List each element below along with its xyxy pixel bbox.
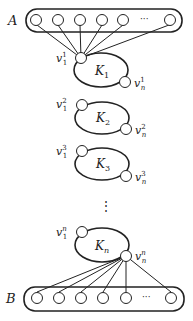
a-node — [75, 15, 86, 26]
graph-diagram: A ··· K1 v11 v1n K2 v21 v2n K3 v31 v3n ⋮… — [0, 0, 193, 321]
svg-text:vn1: vn1 — [56, 225, 67, 241]
svg-text:v3n: v3n — [135, 170, 147, 186]
svg-text:vnn: vnn — [135, 249, 147, 265]
svg-text:K2: K2 — [95, 111, 110, 127]
set-b: B ··· — [5, 287, 184, 311]
set-b-ellipsis: ··· — [142, 292, 151, 302]
set-a: A ··· — [7, 9, 182, 32]
svg-text:v11: v11 — [56, 51, 67, 67]
set-a-ellipsis: ··· — [140, 14, 149, 24]
b-node — [98, 293, 109, 304]
loop-k2: K2 v21 v2n — [56, 97, 147, 139]
svg-text:v2n: v2n — [135, 123, 147, 139]
loop-k1: K1 v11 v1n — [56, 51, 146, 92]
a-node — [118, 15, 129, 26]
loop-k3: K3 v31 v3n — [56, 144, 147, 186]
a-node — [97, 15, 108, 26]
set-a-label: A — [7, 13, 17, 28]
loop-kn: Kn vn1 vnn — [56, 225, 147, 265]
svg-text:K3: K3 — [95, 157, 110, 173]
svg-text:v31: v31 — [56, 144, 67, 160]
b-node — [166, 293, 177, 304]
svg-text:v1n: v1n — [134, 76, 146, 92]
vertical-ellipsis: ⋮ — [100, 199, 112, 213]
set-b-label: B — [5, 291, 16, 306]
diagram-canvas: A ··· K1 v11 v1n K2 v21 v2n K3 v31 v3n ⋮… — [0, 0, 193, 321]
svg-text:K1: K1 — [94, 64, 109, 80]
b-node — [54, 293, 65, 304]
b-node — [76, 293, 87, 304]
svg-text:v21: v21 — [56, 97, 67, 113]
b-node — [121, 293, 132, 304]
a-node — [165, 15, 176, 26]
svg-text:Kn: Kn — [94, 239, 109, 255]
a-node — [31, 15, 42, 26]
a-node — [53, 15, 64, 26]
b-node — [32, 293, 43, 304]
